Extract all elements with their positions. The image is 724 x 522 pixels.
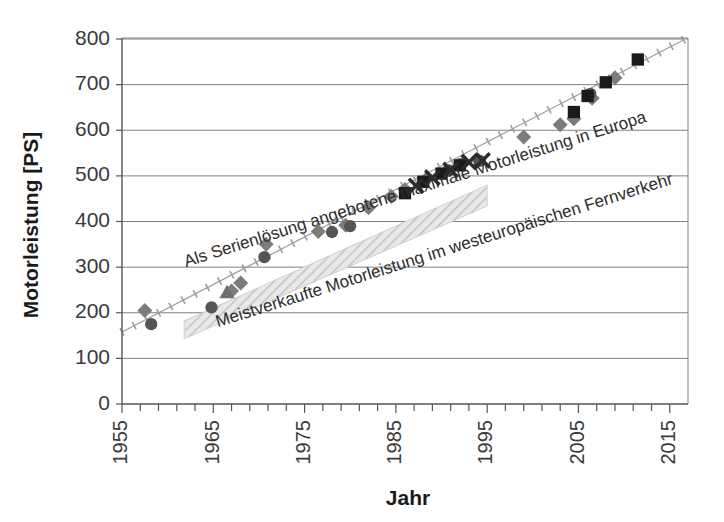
y-tick-label-600: 600 (75, 117, 110, 140)
y-tick-label-300: 300 (75, 254, 110, 277)
x-tick-label-1955: 1955 (109, 420, 131, 465)
marker-circle (258, 251, 270, 263)
y-tick-label-400: 400 (75, 208, 110, 231)
chart-container: 0100200300400500600700800 19551965197519… (0, 0, 724, 522)
marker-circle (145, 318, 157, 330)
x-tick-label-1965: 1965 (201, 420, 223, 465)
marker-square (568, 106, 580, 118)
x-tick-label-2015: 2015 (657, 420, 679, 465)
y-tick-label-100: 100 (75, 345, 110, 368)
x-tick-label-1995: 1995 (474, 420, 496, 465)
motorleistung-scatter-chart: 0100200300400500600700800 19551965197519… (0, 0, 724, 522)
marker-circle (326, 226, 338, 238)
y-tick-label-200: 200 (75, 299, 110, 322)
y-tick-label-700: 700 (75, 71, 110, 94)
x-tick-label-2005: 2005 (566, 420, 588, 465)
marker-square (632, 53, 644, 65)
y-tick-label-800: 800 (75, 26, 110, 49)
marker-square (581, 90, 593, 102)
x-tick-label-1985: 1985 (383, 420, 405, 465)
y-axis-title: Motorleistung [PS] (19, 132, 42, 319)
x-tick-label-1975: 1975 (292, 420, 314, 465)
marker-circle (344, 220, 356, 232)
y-tick-label-500: 500 (75, 162, 110, 185)
x-axis-title: Jahr (386, 486, 430, 509)
y-tick-labels: 0100200300400500600700800 (75, 26, 110, 414)
y-tick-label-0: 0 (98, 391, 110, 414)
marker-square (600, 76, 612, 88)
